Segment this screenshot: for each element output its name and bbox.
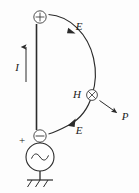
efield-arc-lower — [49, 95, 93, 134]
ground-hatch-3 — [44, 180, 49, 187]
poynting-vector-arrow — [100, 101, 117, 113]
efield-lower-arrowhead — [68, 119, 76, 127]
efield-upper-arrowhead — [67, 28, 76, 34]
antenna-radiation-diagram: I E E P H + — [0, 0, 139, 193]
ground-hatch-1 — [28, 180, 33, 187]
bottom-terminal-minus-symbol — [34, 130, 46, 142]
efield-upper-label: E — [75, 20, 83, 32]
ground-hatch-2 — [36, 180, 41, 187]
current-label: I — [14, 61, 20, 73]
ac-source — [26, 143, 54, 171]
poynting-label: P — [121, 110, 129, 122]
hfield-into-page-symbol — [87, 90, 98, 101]
diagram-canvas: I E E P H + — [0, 0, 139, 193]
hfield-label: H — [72, 88, 82, 100]
efield-lower-label: E — [75, 124, 83, 136]
top-terminal-plus-symbol — [34, 11, 46, 23]
ground-symbol — [27, 180, 53, 187]
terminal-plus-label: + — [19, 134, 25, 146]
efield-arc-upper — [49, 15, 96, 96]
